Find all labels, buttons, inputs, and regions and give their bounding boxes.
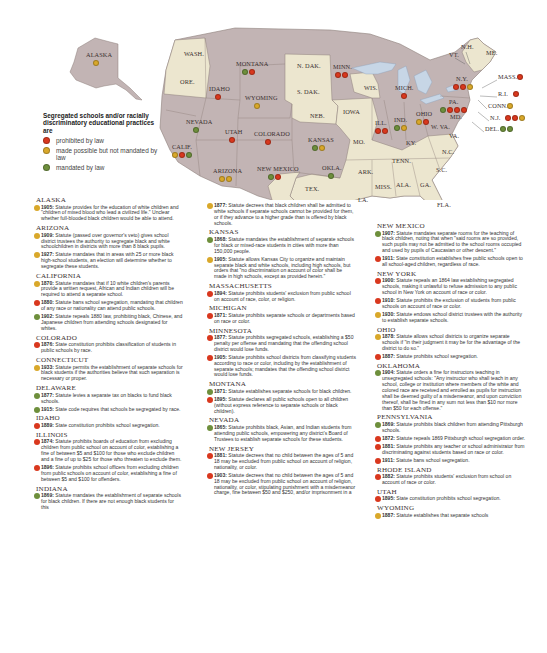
map-dots xyxy=(513,91,519,97)
law-year: 1887: xyxy=(382,353,395,359)
text-column-2: 1877: Statute decrees that black childre… xyxy=(209,203,356,499)
made_possible-dot-icon xyxy=(319,145,325,151)
map-label-fla: FLA. xyxy=(437,201,451,208)
state-wash-ore xyxy=(164,38,210,98)
law-text: Statute prohibits separate schools or de… xyxy=(214,312,355,324)
map-label-n-y: N.Y. xyxy=(456,75,468,82)
map-label-nevada: NEVADA xyxy=(186,118,212,125)
law-entry: 1880: Statute bans school segregation, m… xyxy=(36,300,183,312)
legend-item-prohibited: prohibited by law xyxy=(43,137,163,144)
law-entry: 1882: Statute prohibits students' exclus… xyxy=(377,474,527,486)
law-text: Statute prohibits black children from at… xyxy=(382,421,523,433)
mandated-dot-icon xyxy=(34,393,40,399)
legend-label: mandated by law xyxy=(56,164,104,171)
map-label-arizona: ARIZONA xyxy=(213,167,242,174)
map-label-va: VA. xyxy=(449,132,459,139)
prohibited-dot-icon xyxy=(229,137,235,143)
prohibited-dot-icon xyxy=(265,139,271,145)
state-entry-new-york: NEW YORK1900: Statute repeals an 1864 la… xyxy=(377,271,527,324)
state-entry-connecticut: CONNECTICUT1933: Statute permits the est… xyxy=(36,357,183,382)
law-year: 1911: xyxy=(382,457,395,463)
law-entry: 1904: Statute orders a fine for instruct… xyxy=(377,370,527,411)
mandated-dot-icon xyxy=(34,493,40,499)
law-entry: 1877: Statute levies a separate tax on b… xyxy=(36,393,183,405)
map-dots xyxy=(172,152,192,158)
law-text: Statute establishes separate schools for… xyxy=(227,388,352,394)
map-label-ga: GA. xyxy=(420,181,431,188)
law-text: State code requires that schools be segr… xyxy=(54,406,181,412)
made_possible-dot-icon xyxy=(375,513,381,519)
made_possible-dot-icon xyxy=(34,205,40,211)
map-label-utah: UTAH xyxy=(225,128,242,135)
state-entry-wyoming: WYOMING1887: Statute establishes that se… xyxy=(377,505,527,518)
state-entry-ohio: OHIO1878: Statute allows school district… xyxy=(377,327,527,360)
prohibited-dot-icon xyxy=(453,84,459,90)
law-text: Statute endows school district trustees … xyxy=(382,311,522,323)
law-text: Statute bans school segregation, mandati… xyxy=(41,299,183,311)
made_possible-dot-icon xyxy=(254,103,260,109)
law-year: 1915: xyxy=(41,406,54,412)
state-entry-illinois: ILLINOIS1874: Statute prohibits boards o… xyxy=(36,432,183,483)
map-label-mass: MASS. xyxy=(498,73,517,80)
law-entry: 1878: Statute allows school districts to… xyxy=(377,334,527,352)
made_possible-dot-icon xyxy=(34,365,40,371)
mandated-dot-icon xyxy=(328,173,334,179)
mandated-dot-icon xyxy=(34,407,40,413)
made_possible-dot-icon xyxy=(416,119,422,125)
prohibited-dot-icon xyxy=(335,72,341,78)
map-label-ill: ILL. xyxy=(375,119,387,126)
prohibited-dot-icon xyxy=(375,436,381,442)
made_possible-dot-icon xyxy=(93,60,99,66)
map-dots xyxy=(335,72,348,78)
prohibited-dot-icon xyxy=(375,298,381,304)
state-entry-michigan: MICHIGAN1871: Statute prohibits separate… xyxy=(209,305,356,324)
law-entry: 1869: Statute mandates the establishment… xyxy=(36,493,183,511)
mandated-dot-icon xyxy=(500,126,506,132)
text-column-1: ALASKA1905: Statute provides for the edu… xyxy=(36,197,183,514)
state-entry-indiana: INDIANA1869: Statute mandates the establ… xyxy=(36,486,183,511)
map-dots xyxy=(401,93,407,99)
state-entry-kansas: KANSAS1868: Statute mandates the establi… xyxy=(209,229,356,280)
prohibited-dot-icon xyxy=(375,458,381,464)
state-entry-rhode-island: RHODE ISLAND1882: Statute prohibits stud… xyxy=(377,467,527,486)
law-entry: 1905: Statute prohibits school districts… xyxy=(209,355,356,378)
made_possible-dot-icon xyxy=(34,281,40,287)
law-entry: 1909: Statute (passed over governor's ve… xyxy=(36,233,183,251)
map-label-idaho: IDAHO xyxy=(209,85,230,92)
prohibited-dot-icon xyxy=(460,84,466,90)
map-dots xyxy=(416,119,429,125)
map-dots xyxy=(215,94,221,100)
map-label-r-i: R.I. xyxy=(498,90,508,97)
prohibited-dot-icon xyxy=(34,342,40,348)
map-label-ark: ARK. xyxy=(358,168,373,175)
prohibited-dot-icon xyxy=(375,474,381,480)
map-label-del: DEL. xyxy=(485,125,499,132)
prohibited-dot-icon xyxy=(375,256,381,262)
law-text: State constitution prohibits classificat… xyxy=(41,341,176,353)
law-year: 1872: xyxy=(382,435,395,441)
made_possible-dot-icon xyxy=(401,125,407,131)
prohibited-dot-icon xyxy=(375,496,381,502)
map-dots xyxy=(312,145,325,151)
mandated-dot-icon xyxy=(394,125,400,131)
law-entry: 1910: Statute prohibits the exclusion of… xyxy=(377,298,527,310)
map-dots xyxy=(394,125,407,131)
law-text: Statute mandates that if 10 white childr… xyxy=(41,280,174,298)
law-entry: 1874: Statute prohibits boards of educat… xyxy=(36,439,183,462)
prohibited-dot-icon xyxy=(207,473,213,479)
map-dots xyxy=(453,84,473,90)
prohibited-dot-icon xyxy=(207,355,213,361)
prohibited-dot-icon xyxy=(34,465,40,471)
law-entry: 1887: Statute prohibits school segregati… xyxy=(377,354,527,360)
law-entry: 1889: State constitution prohibits schoo… xyxy=(36,423,183,429)
law-text: Statute orders a fine for instructors te… xyxy=(382,369,521,410)
prohibited-dot-icon xyxy=(423,119,429,125)
law-entry: 1907: Statute mandates separate rooms fo… xyxy=(377,231,527,254)
map-dots xyxy=(500,126,513,132)
mandated-dot-icon xyxy=(207,389,213,395)
yellow-dot-icon xyxy=(43,147,50,154)
law-entry: 1930: Statute endows school district tru… xyxy=(377,312,527,324)
law-year: 1889: xyxy=(41,422,54,428)
prohibited-dot-icon xyxy=(207,335,213,341)
mandated-dot-icon xyxy=(193,127,199,133)
